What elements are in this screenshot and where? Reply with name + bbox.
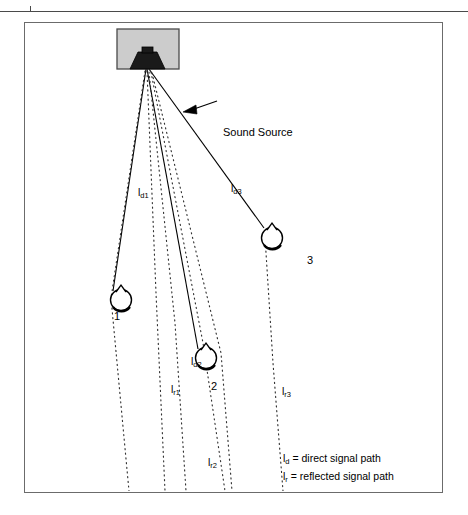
reflected-path-lr1-a xyxy=(111,71,145,491)
microphone-3 xyxy=(262,223,283,249)
speaker-magnet xyxy=(142,47,153,53)
sound-source-speaker xyxy=(117,29,179,69)
sound-source-arrow xyxy=(183,101,217,114)
ld1-subscript: d1 xyxy=(140,191,148,200)
lr1-subscript: r1 xyxy=(173,388,180,397)
direct-path-ld3 xyxy=(149,69,264,228)
legend-direct-text: = direct signal path xyxy=(292,452,380,464)
legend: ld = direct signal path lr = reflected s… xyxy=(283,450,394,486)
reflected-path-lr3-a xyxy=(152,73,232,491)
legend-direct-subscript: d xyxy=(285,457,289,466)
figure-page: Sound Source 1 2 3 ld1 ld2 ld3 lr1 lr2 l… xyxy=(0,0,468,515)
lr3-subscript: r3 xyxy=(284,390,291,399)
microphone-3-tip xyxy=(267,223,277,230)
ld3-subscript: d3 xyxy=(233,187,241,196)
legend-reflected-text: = reflected signal path xyxy=(291,470,394,482)
acoustic-path-diagram xyxy=(25,23,441,491)
reflected-path-lr1-b xyxy=(147,71,165,491)
page-top-rule xyxy=(0,11,468,12)
reflected-path-lr1-label: lr1 xyxy=(171,384,180,395)
direct-path-ld1-label: ld1 xyxy=(138,187,149,198)
ld2-subscript: d2 xyxy=(193,360,201,369)
reflected-path-lr2-label: lr2 xyxy=(208,457,217,468)
microphone-3-label: 3 xyxy=(307,255,313,266)
microphone-1-tip xyxy=(116,285,126,292)
legend-row-reflected: lr = reflected signal path xyxy=(283,468,394,486)
microphone-2-tip xyxy=(201,343,211,350)
reflected-path-lr3-label: lr3 xyxy=(282,386,291,397)
legend-reflected-subscript: r xyxy=(285,475,288,484)
direct-path-ld1 xyxy=(113,69,146,291)
sound-source-label: Sound Source xyxy=(223,127,293,138)
direct-path-ld2-label: ld2 xyxy=(191,356,202,367)
reflected-path-lr3-b xyxy=(265,237,283,491)
legend-row-direct: ld = direct signal path xyxy=(283,450,394,468)
microphone-1-label: 1 xyxy=(114,311,120,322)
direct-path-ld3-label: ld3 xyxy=(231,183,242,194)
sound-source-arrow-head xyxy=(183,105,197,114)
reflected-path-lr2-a xyxy=(149,72,186,491)
microphone-2-label: 2 xyxy=(211,381,217,392)
figure-frame: Sound Source 1 2 3 ld1 ld2 ld3 lr1 lr2 l… xyxy=(24,22,443,493)
page-top-rule-tick xyxy=(30,6,31,11)
lr2-subscript: r2 xyxy=(210,461,217,470)
sound-source-arrow-shaft xyxy=(194,101,217,109)
